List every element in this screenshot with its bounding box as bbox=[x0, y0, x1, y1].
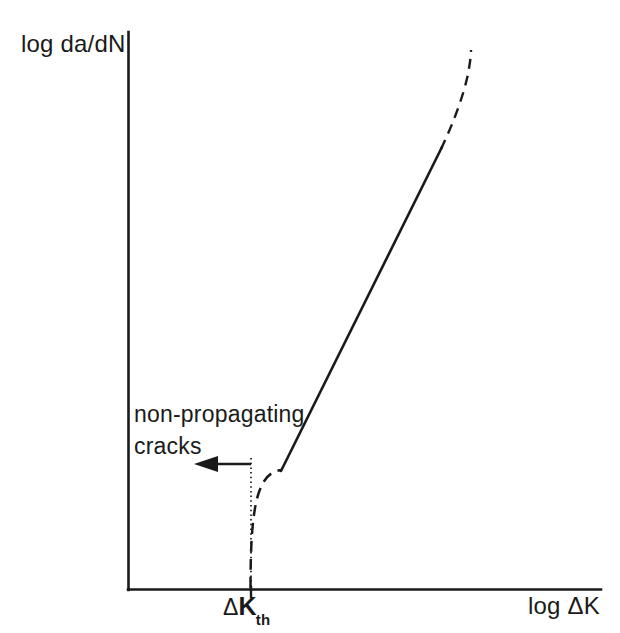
threshold-axis-label: ΔKth bbox=[223, 594, 271, 623]
y-axis-label: log da/dN bbox=[21, 32, 126, 56]
annotation-non-propagating-line1: non-propagating bbox=[134, 403, 305, 426]
threshold-delta-symbol: Δ bbox=[223, 594, 239, 620]
curve-region-ii-paris-law bbox=[281, 147, 442, 471]
figure-canvas: log da/dN non-propagating cracks ΔKth lo… bbox=[0, 0, 620, 633]
threshold-subscript: th bbox=[256, 611, 271, 628]
x-axis-label: log ΔK bbox=[528, 594, 600, 618]
curve-region-i-threshold bbox=[251, 470, 283, 588]
fatigue-crack-growth-diagram bbox=[0, 0, 620, 633]
curve-region-iii-unstable bbox=[441, 50, 471, 149]
threshold-k-symbol: K bbox=[239, 592, 257, 620]
annotation-non-propagating-line2: cracks bbox=[134, 435, 202, 458]
